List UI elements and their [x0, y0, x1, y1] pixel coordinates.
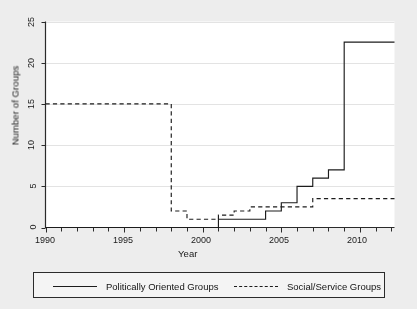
y-tick-label-15: 15 — [26, 95, 36, 113]
y-tick-label-20: 20 — [26, 54, 36, 72]
legend-label-social-service-groups: Social/Service Groups — [287, 281, 381, 292]
chart-figure: Number of Groups Year 0 5 10 15 20 25 19… — [0, 0, 417, 309]
x-tick-label-2000: 2000 — [191, 235, 211, 245]
legend-entry-social-service-groups: Social/Service Groups — [234, 273, 381, 299]
x-tick-label-2010: 2010 — [347, 235, 367, 245]
legend-line-solid-icon — [53, 282, 97, 291]
legend-label-politically-oriented-groups: Politically Oriented Groups — [106, 281, 218, 292]
x-tick-label-1990: 1990 — [35, 235, 55, 245]
y-tick-label-25: 25 — [26, 13, 36, 31]
x-tick-label-1995: 1995 — [113, 235, 133, 245]
legend-line-dashed-icon — [234, 282, 278, 291]
chart-legend: Politically Oriented Groups Social/Servi… — [33, 272, 385, 298]
chart-plot-area — [0, 0, 417, 309]
x-tick-label-2005: 2005 — [269, 235, 289, 245]
y-tick-label-10: 10 — [26, 136, 36, 154]
x-axis-title: Year — [178, 248, 198, 259]
legend-entry-politically-oriented-groups: Politically Oriented Groups — [53, 273, 218, 299]
y-tick-label-0: 0 — [28, 218, 38, 236]
y-axis-title: Number of Groups — [10, 61, 21, 151]
y-tick-label-5: 5 — [28, 177, 38, 195]
